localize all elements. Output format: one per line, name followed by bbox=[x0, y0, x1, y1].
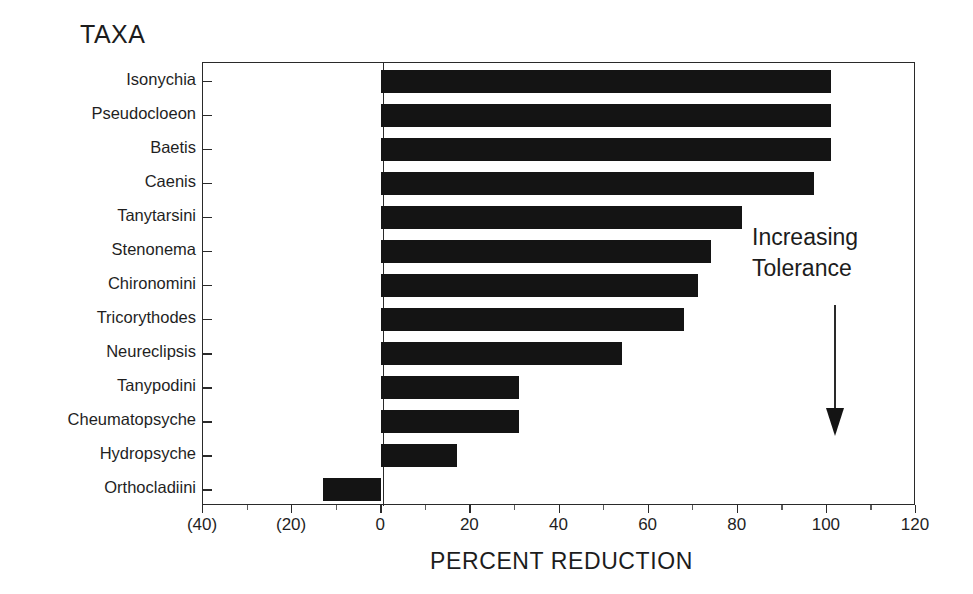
x-axis-tick bbox=[915, 505, 916, 513]
y-axis-tick bbox=[203, 81, 212, 82]
taxa-heading: TAXA bbox=[80, 20, 145, 49]
x-axis-minor-tick bbox=[336, 505, 337, 510]
x-axis-title: PERCENT REDUCTION bbox=[0, 548, 973, 575]
y-axis-tick bbox=[203, 421, 212, 422]
x-axis-tick bbox=[559, 505, 560, 513]
y-axis-tick-label: Tricorythodes bbox=[0, 308, 196, 327]
y-axis-tick-label: Tanypodini bbox=[0, 376, 196, 395]
bar bbox=[381, 172, 813, 195]
x-axis-tick-label: 0 bbox=[376, 515, 385, 535]
y-axis-tick bbox=[203, 285, 212, 286]
y-axis-tick bbox=[203, 251, 212, 252]
bar bbox=[381, 308, 684, 331]
x-axis-tick-label: (20) bbox=[276, 515, 306, 535]
x-axis-minor-tick bbox=[514, 505, 515, 510]
arrow-shaft bbox=[834, 305, 836, 415]
y-axis-tick-label: Cheumatopsyche bbox=[0, 410, 196, 429]
y-axis-tick-label: Neureclipsis bbox=[0, 342, 196, 361]
y-axis-tick bbox=[203, 115, 212, 116]
bar bbox=[381, 104, 831, 127]
y-axis-tick-label: Pseudocloeon bbox=[0, 104, 196, 123]
y-axis-tick bbox=[203, 387, 212, 388]
y-axis-tick-label: Orthocladiini bbox=[0, 478, 196, 497]
x-axis-tick bbox=[469, 505, 470, 513]
x-axis-minor-tick bbox=[425, 505, 426, 510]
bar bbox=[381, 138, 831, 161]
x-axis-tick bbox=[648, 505, 649, 513]
x-axis-tick-label: 120 bbox=[901, 515, 929, 535]
y-axis-tick bbox=[203, 183, 212, 184]
y-axis-tick bbox=[203, 489, 212, 490]
annotation-line-1: Increasing bbox=[752, 222, 942, 253]
x-axis-minor-tick bbox=[247, 505, 248, 510]
x-axis-tick bbox=[380, 505, 381, 513]
x-axis-tick-label: 40 bbox=[549, 515, 568, 535]
y-axis-tick bbox=[203, 319, 212, 320]
x-axis-tick bbox=[737, 505, 738, 513]
bar bbox=[381, 206, 742, 229]
x-axis-minor-tick bbox=[870, 505, 871, 510]
bar bbox=[381, 342, 622, 365]
x-axis-tick bbox=[291, 505, 292, 513]
bar bbox=[323, 478, 381, 501]
x-axis-minor-tick bbox=[781, 505, 782, 510]
x-axis-tick-label: 20 bbox=[460, 515, 479, 535]
y-axis-tick bbox=[203, 353, 212, 354]
x-axis-tick-label: 80 bbox=[727, 515, 746, 535]
y-axis-tick bbox=[203, 455, 212, 456]
y-axis-tick bbox=[203, 149, 212, 150]
y-axis-tick bbox=[203, 217, 212, 218]
y-axis-tick-label: Stenonema bbox=[0, 240, 196, 259]
x-axis-title-text: PERCENT REDUCTION bbox=[430, 548, 693, 575]
bar bbox=[381, 70, 831, 93]
y-axis-tick-label: Chironomini bbox=[0, 274, 196, 293]
down-arrow-icon bbox=[824, 305, 846, 440]
tolerance-annotation: Increasing Tolerance bbox=[752, 222, 942, 284]
bar bbox=[381, 376, 519, 399]
y-axis-tick-label: Tanytarsini bbox=[0, 206, 196, 225]
bar bbox=[381, 410, 519, 433]
y-axis-tick-label: Caenis bbox=[0, 172, 196, 191]
bar bbox=[381, 240, 711, 263]
annotation-line-2: Tolerance bbox=[752, 253, 942, 284]
x-axis-tick-label: 60 bbox=[638, 515, 657, 535]
x-axis-tick-label: (40) bbox=[187, 515, 217, 535]
x-axis-tick bbox=[826, 505, 827, 513]
y-axis-labels: IsonychiaPseudocloeonBaetisCaenisTanytar… bbox=[0, 62, 196, 505]
x-axis-minor-tick bbox=[692, 505, 693, 510]
x-axis-tick bbox=[202, 505, 203, 513]
y-axis-tick-label: Hydropsyche bbox=[0, 444, 196, 463]
bar bbox=[381, 274, 697, 297]
arrow-head bbox=[826, 408, 844, 436]
y-axis-tick-label: Baetis bbox=[0, 138, 196, 157]
bar-chart-figure: TAXA IsonychiaPseudocloeonBaetisCaenisTa… bbox=[0, 0, 973, 594]
y-axis-tick-label: Isonychia bbox=[0, 70, 196, 89]
x-axis-tick-label: 100 bbox=[812, 515, 840, 535]
x-axis-minor-tick bbox=[603, 505, 604, 510]
bar bbox=[381, 444, 457, 467]
